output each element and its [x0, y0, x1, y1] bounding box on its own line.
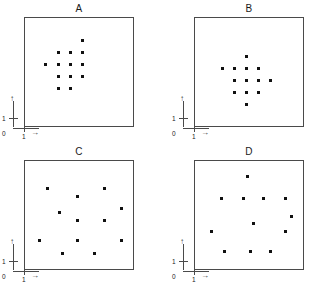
x-tick-mark: [24, 266, 25, 275]
origin-label: 0: [172, 273, 176, 280]
x-tick-label: 1: [192, 276, 196, 283]
y-axis-arrow-icon: ↑: [10, 238, 14, 246]
x-axis-arrow-icon: →: [31, 272, 39, 280]
origin-label: 0: [172, 130, 176, 137]
panel-title-c: C: [24, 146, 134, 158]
axis-annotation-c: ↑101→: [0, 160, 134, 286]
origin-label: 0: [2, 130, 6, 137]
y-tick-label: 1: [172, 258, 176, 265]
y-axis-arrow-icon: ↑: [180, 238, 184, 246]
x-axis-arrow-icon: →: [31, 129, 39, 137]
panel-d: D↑101→: [170, 146, 304, 286]
y-axis-arrow-icon: ↑: [10, 95, 14, 103]
y-axis-line: [13, 101, 14, 127]
y-tick-mark: [9, 261, 18, 262]
panel-title-b: B: [194, 3, 304, 15]
y-tick-label: 1: [2, 258, 6, 265]
y-axis-line: [183, 244, 184, 270]
y-tick-mark: [9, 118, 18, 119]
panel-b: B↑101→: [170, 3, 304, 143]
y-axis-arrow-icon: ↑: [180, 95, 184, 103]
x-axis-arrow-icon: →: [201, 129, 209, 137]
panel-title-a: A: [24, 3, 134, 15]
x-tick-label: 1: [192, 133, 196, 140]
y-tick-label: 1: [2, 115, 6, 122]
x-tick-mark: [24, 123, 25, 132]
axis-annotation-a: ↑101→: [0, 17, 134, 143]
axis-annotation-d: ↑101→: [170, 160, 304, 286]
panel-c: C↑101→: [0, 146, 134, 286]
axis-annotation-b: ↑101→: [170, 17, 304, 143]
x-tick-label: 1: [22, 133, 26, 140]
origin-label: 0: [2, 273, 6, 280]
y-tick-label: 1: [172, 115, 176, 122]
x-axis-arrow-icon: →: [201, 272, 209, 280]
figure-root: A↑101→B↑101→C↑101→D↑101→: [0, 0, 315, 292]
y-axis-line: [183, 101, 184, 127]
y-axis-line: [13, 244, 14, 270]
x-tick-mark: [194, 266, 195, 275]
y-tick-mark: [179, 261, 188, 262]
panel-title-d: D: [194, 146, 304, 158]
x-tick-label: 1: [22, 276, 26, 283]
panel-a: A↑101→: [0, 3, 134, 143]
x-tick-mark: [194, 123, 195, 132]
y-tick-mark: [179, 118, 188, 119]
